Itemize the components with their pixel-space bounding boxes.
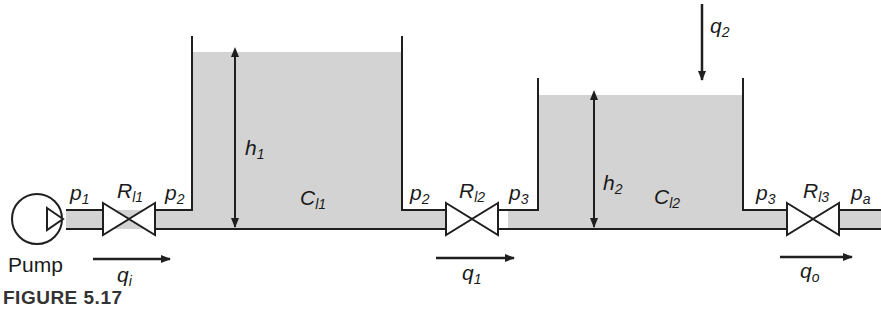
pump-label: Pump — [8, 253, 63, 276]
valve-rl3-icon — [787, 203, 839, 235]
valve-label-rl1: Rl1 — [117, 179, 143, 205]
flow-label-q2: q2 — [710, 14, 730, 40]
pressure-label-p3-left: p3 — [508, 181, 529, 207]
flow-label-q1: q1 — [462, 261, 481, 287]
pressure-label-p2-right: p2 — [409, 181, 430, 207]
valve-rl1-icon — [103, 203, 155, 235]
valve-rl2-icon — [446, 203, 498, 235]
valve-label-rl2: Rl2 — [459, 179, 485, 205]
two-tank-system-diagram: Pump p1 p2 p2 p3 p3 pa Rl1 Rl2 Rl3 h1 Cl… — [0, 0, 881, 316]
pressure-label-p2-left: p2 — [164, 181, 185, 207]
pressure-label-p1: p1 — [69, 181, 89, 207]
figure-caption: FIGURE 5.17 — [3, 287, 123, 308]
flow-label-qi: qi — [117, 263, 133, 289]
valve-label-rl3: Rl3 — [803, 179, 829, 205]
flow-label-qo: qo — [800, 259, 820, 285]
pressure-label-pa: pa — [850, 181, 871, 207]
pressure-label-p3-right: p3 — [755, 181, 776, 207]
pump: Pump — [8, 194, 63, 276]
